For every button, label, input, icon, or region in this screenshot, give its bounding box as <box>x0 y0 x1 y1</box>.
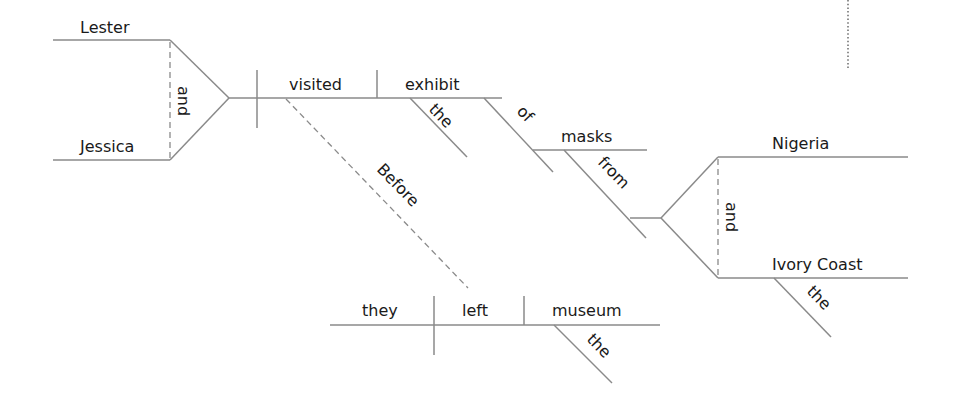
subject-1-word: Lester <box>80 18 130 37</box>
main-clause: visited exhibit the <box>229 70 502 157</box>
compound-subject: Lester Jessica and <box>53 18 229 160</box>
prep-object-2a-word: Nigeria <box>772 134 829 153</box>
object-word: exhibit <box>405 75 460 94</box>
prep-object-conjunction-word: and <box>722 202 741 232</box>
clause-verb-word: left <box>462 301 488 320</box>
clause-object-article-word: the <box>583 330 615 362</box>
prep-object-2b-article-word: the <box>803 282 835 314</box>
verb-word: visited <box>289 75 342 94</box>
preposition-2-word: from <box>594 153 634 193</box>
fork2-lower-branch <box>661 218 718 278</box>
subject-conjunction-word: and <box>174 86 193 116</box>
subject-2-word: Jessica <box>79 137 134 156</box>
prep-object-2b-word: Ivory Coast <box>772 255 862 274</box>
fork2-upper-branch <box>661 157 718 218</box>
preposition-1-word: of <box>513 102 538 127</box>
object-article-word: the <box>425 100 457 132</box>
subordinate-clause: they left museum the <box>330 296 660 383</box>
prep-object-1-word: masks <box>561 127 612 146</box>
prep-phrase-of: of masks <box>484 98 647 172</box>
clause-subject-word: they <box>362 301 398 320</box>
subordinating-conjunction-word: Before <box>373 160 423 211</box>
clause-object-word: museum <box>552 301 622 320</box>
sentence-diagram: Lester Jessica and visited exhibit the o… <box>0 0 954 398</box>
